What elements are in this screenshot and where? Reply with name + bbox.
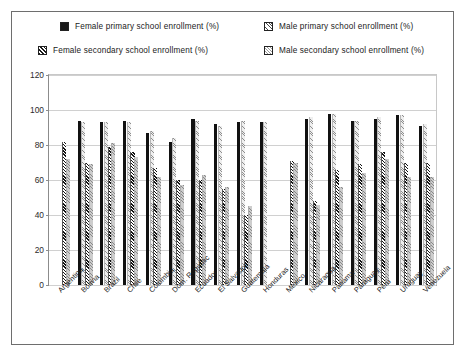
bar-group (100, 75, 114, 285)
bar (123, 121, 126, 286)
chart-bars-layer (49, 75, 436, 285)
bar (396, 115, 399, 285)
bar-group (374, 75, 388, 285)
bar-group (396, 75, 410, 285)
bar (351, 121, 354, 286)
y-axis-tick-label: 80 (35, 140, 44, 150)
bar (328, 114, 331, 286)
bar (263, 122, 267, 285)
bar-group (214, 75, 228, 285)
bar-group (351, 75, 365, 285)
bar (407, 177, 411, 286)
bar (214, 124, 217, 285)
bar (191, 119, 194, 285)
bar-group (78, 75, 92, 285)
bar (430, 177, 434, 286)
bar (100, 122, 103, 285)
y-axis-tick-label: 100 (30, 105, 44, 115)
bar (385, 159, 389, 285)
bar-group (55, 75, 69, 285)
chart-plot-wrapper: 020406080100120 ArgentinaBoliviaBrazilCh… (12, 12, 455, 346)
bar (157, 177, 161, 286)
bar (293, 163, 297, 286)
bar-group (146, 75, 160, 285)
bar-group (419, 75, 433, 285)
bar (169, 142, 172, 286)
bar (146, 133, 149, 285)
chart-x-axis-labels: ArgentinaBoliviaBrazilChileColombiaDom. … (48, 288, 437, 346)
bar-group (283, 75, 297, 285)
bar (362, 173, 366, 285)
y-axis-tick-label: 60 (35, 175, 44, 185)
y-axis-tick-mark (46, 285, 49, 286)
bar-group (260, 75, 274, 285)
bar (225, 187, 229, 285)
bar-group (237, 75, 251, 285)
bar (202, 175, 206, 285)
bar (111, 143, 115, 285)
y-axis-tick-label: 120 (30, 70, 44, 80)
y-axis-tick-label: 40 (35, 210, 44, 220)
bar (134, 157, 138, 285)
y-axis-tick-label: 20 (35, 245, 44, 255)
bar (248, 206, 252, 285)
bar (374, 119, 377, 285)
bar (260, 122, 263, 285)
bar (78, 121, 81, 286)
y-axis-tick-label: 0 (39, 280, 44, 290)
bar-group (305, 75, 319, 285)
bar (339, 187, 343, 285)
bar (66, 159, 70, 285)
bar (316, 205, 320, 286)
bar-group (123, 75, 137, 285)
bar (419, 126, 422, 285)
bar-group (328, 75, 342, 285)
bar (305, 119, 308, 285)
bar (180, 185, 184, 285)
bar (89, 164, 93, 285)
bar-group (169, 75, 183, 285)
bar (237, 122, 240, 285)
chart-figure: Female primary school enrollment (%) Mal… (11, 11, 454, 345)
chart-plot-area: 020406080100120 (48, 74, 437, 286)
